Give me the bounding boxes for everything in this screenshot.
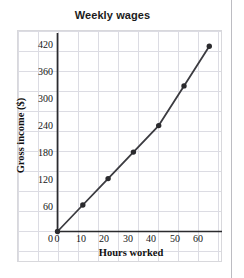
- data-point-markers: [55, 44, 212, 235]
- data-point: [105, 176, 110, 181]
- axis-lines: [57, 33, 222, 232]
- y-tick-label-300: 300: [23, 94, 53, 104]
- x-tick-label-0: 0: [45, 234, 69, 244]
- data-point: [156, 123, 161, 128]
- y-axis-label: Gross income ($): [15, 71, 26, 201]
- y-tick-label-420: 420: [23, 40, 53, 50]
- x-tick-label-40: 40: [139, 234, 163, 244]
- x-tick-label-30: 30: [116, 234, 140, 244]
- x-tick-label-50: 50: [163, 234, 187, 244]
- data-point: [131, 149, 136, 154]
- y-tick-label-360: 360: [23, 67, 53, 77]
- x-axis-label: Hours worked: [57, 247, 205, 258]
- chart-figure: Weekly wages: [0, 0, 244, 278]
- data-point: [80, 202, 85, 207]
- y-tick-label-180: 180: [23, 148, 53, 158]
- plot-layer: 420 360 300 240 180 120 60 0 0 10 20 30 …: [0, 0, 244, 278]
- data-point: [181, 83, 186, 88]
- x-tick-label-10: 10: [69, 234, 93, 244]
- data-point: [207, 44, 212, 49]
- y-tick-label-240: 240: [23, 121, 53, 131]
- x-tick-label-20: 20: [92, 234, 116, 244]
- x-tick-label-60: 60: [186, 234, 210, 244]
- y-tick-label-60: 60: [23, 202, 53, 212]
- y-tick-label-120: 120: [23, 175, 53, 185]
- data-line: [58, 46, 210, 231]
